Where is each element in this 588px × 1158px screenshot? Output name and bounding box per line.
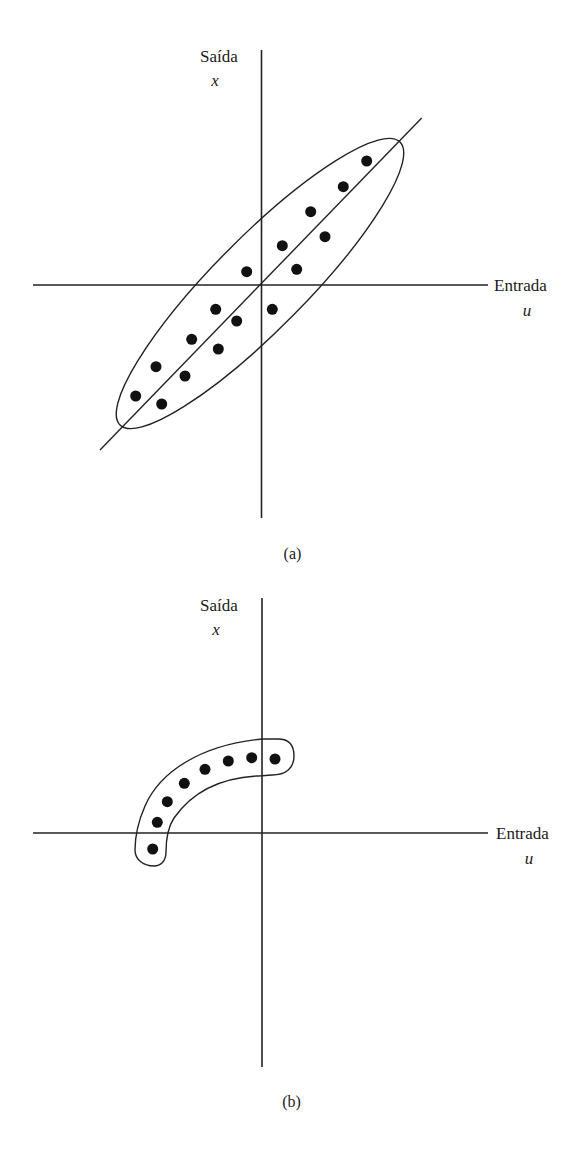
data-point — [200, 764, 211, 775]
data-point — [223, 756, 234, 767]
data-point — [246, 752, 257, 763]
data-point — [130, 391, 141, 402]
data-point — [277, 240, 288, 251]
data-point — [320, 231, 331, 242]
figure-b-caption: (b) — [282, 1093, 301, 1111]
data-point — [162, 796, 173, 807]
figure-a-ellipse — [87, 110, 432, 458]
data-point — [151, 361, 162, 372]
figure-b-y-axis-label: Saída — [200, 596, 238, 615]
data-point — [180, 371, 191, 382]
data-point — [210, 304, 221, 315]
data-point — [213, 344, 224, 355]
figure-a-points — [130, 156, 372, 410]
figure-a-y-axis-label: Saída — [200, 47, 238, 66]
data-point — [267, 304, 278, 315]
data-point — [179, 778, 190, 789]
data-point — [156, 399, 167, 410]
data-point — [152, 817, 163, 828]
data-point — [147, 844, 158, 855]
data-point — [231, 316, 242, 327]
figure-a-caption: (a) — [284, 545, 302, 563]
data-point — [305, 206, 316, 217]
data-point — [241, 266, 252, 277]
figure-b-y-axis-var: x — [211, 620, 220, 639]
data-point — [270, 754, 281, 765]
figure-b-x-axis-label: Entrada — [496, 824, 549, 843]
figure-b-x-axis-var: u — [525, 849, 534, 868]
figure-a-x-axis-var: u — [523, 301, 532, 320]
data-point — [186, 334, 197, 345]
figure-canvas: Saída x Entrada u (a) Saída x Entrada u … — [0, 0, 588, 1158]
figure-a: Saída x Entrada u (a) — [33, 47, 547, 563]
figure-a-y-axis-var: x — [210, 71, 219, 90]
figure-b: Saída x Entrada u (b) — [33, 596, 549, 1111]
data-point — [361, 156, 372, 167]
data-point — [291, 264, 302, 275]
figure-a-x-axis-label: Entrada — [494, 276, 547, 295]
data-point — [338, 181, 349, 192]
